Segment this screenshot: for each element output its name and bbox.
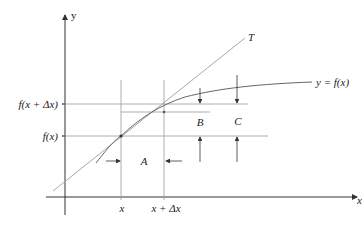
tangent-point [119,134,122,137]
tick-label-x-plus-dx: x + Δx [150,202,180,214]
curve-point [163,111,166,114]
tangent-label: T [248,31,255,43]
tangent-diagram: y x f(x + Δx) f(x) x x + Δx y = f(x) T A… [0,0,364,225]
curve-label: y = f(x) [315,76,349,89]
tick-label-f-x: f(x) [43,130,59,143]
x-axis-label: x [356,194,362,206]
function-curve [96,82,312,163]
tick-label-f-x-plus-dx: f(x + Δx) [18,98,58,111]
region-label-c: C [234,115,242,127]
tick-label-x: x [119,202,125,214]
region-label-b: B [197,116,204,128]
y-axis-label: y [71,9,77,21]
region-label-a: A [140,155,148,167]
